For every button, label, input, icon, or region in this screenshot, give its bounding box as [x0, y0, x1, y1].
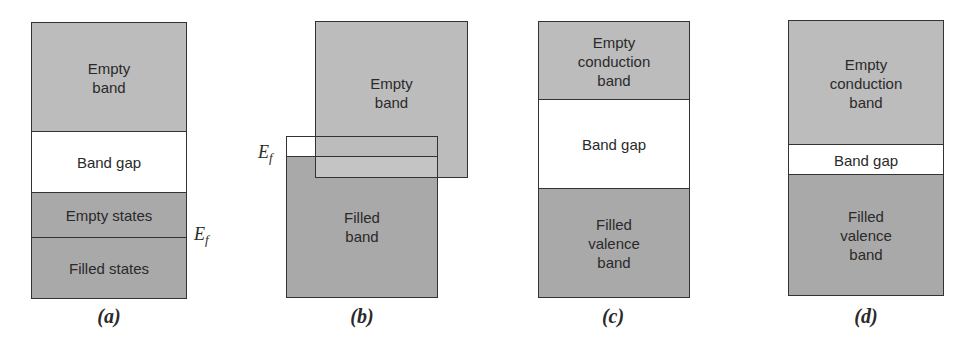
- conduction-band: Empty conduction band: [788, 20, 944, 146]
- band-gap: Band gap: [788, 144, 944, 176]
- empty-states-label: Empty states: [66, 206, 153, 225]
- fermi-sub: f: [269, 150, 273, 165]
- empty-band: Empty band: [31, 22, 187, 133]
- fermi-level-label: Ef: [194, 224, 209, 248]
- empty-band-label: Empty band: [88, 59, 131, 97]
- band-gap-label: Band gap: [77, 153, 141, 172]
- filled-band-outline: [286, 136, 438, 298]
- band-gap: Band gap: [538, 99, 690, 190]
- conduction-band-label: Empty conduction band: [578, 33, 651, 90]
- filled-states: Filled states: [31, 237, 187, 299]
- conduction-band-label: Empty conduction band: [830, 55, 903, 112]
- fermi-e: E: [194, 224, 205, 244]
- empty-band-label: Empty band: [370, 74, 413, 112]
- valence-band: Filled valence band: [538, 188, 690, 298]
- fermi-sub: f: [205, 232, 209, 247]
- band-gap-label: Band gap: [834, 151, 898, 170]
- caption-c: (c): [602, 305, 624, 328]
- fermi-e: E: [258, 142, 269, 162]
- empty-states: Empty states: [31, 192, 187, 239]
- valence-band: Filled valence band: [788, 174, 944, 296]
- caption-b: (b): [350, 305, 373, 328]
- band-gap: Band gap: [31, 131, 187, 194]
- filled-states-label: Filled states: [69, 259, 149, 278]
- conduction-band: Empty conduction band: [538, 21, 690, 101]
- fermi-level-label: Ef: [258, 142, 273, 166]
- caption-d: (d): [854, 305, 877, 328]
- band-gap-label: Band gap: [582, 135, 646, 154]
- valence-band-label: Filled valence band: [588, 215, 640, 272]
- caption-a: (a): [97, 305, 120, 328]
- valence-band-label: Filled valence band: [840, 207, 892, 264]
